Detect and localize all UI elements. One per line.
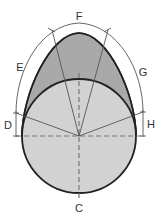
label-c: C: [75, 202, 83, 214]
label-h: H: [147, 118, 155, 130]
label-f: F: [76, 10, 83, 22]
label-e: E: [16, 61, 23, 73]
arc-tick-left: [48, 28, 55, 32]
egg-geometry-diagram: F E G D H C: [0, 0, 159, 223]
label-g: G: [139, 66, 148, 78]
label-d: D: [4, 119, 12, 131]
